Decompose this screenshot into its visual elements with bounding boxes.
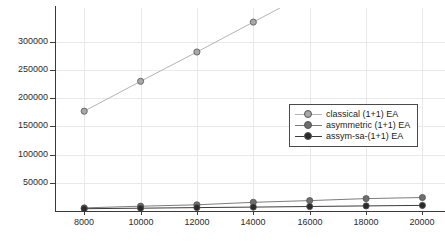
- legend-marker-icon: [304, 110, 312, 118]
- x-tick-mark-1: [141, 211, 142, 215]
- data-point: [363, 196, 369, 202]
- y-tick-label-0: 50000: [0, 178, 48, 187]
- y-tick-label-5: 300000: [0, 37, 48, 46]
- x-tick-label-3: 14000: [240, 217, 265, 227]
- x-tick-mark-0: [84, 211, 85, 215]
- y-tick-mark-0: [50, 183, 55, 184]
- x-tick-mark-5: [366, 211, 367, 215]
- y-tick-mark-2: [50, 126, 55, 127]
- x-tick-label-5: 18000: [353, 217, 378, 227]
- x-tick-label-2: 12000: [184, 217, 209, 227]
- data-point: [194, 49, 200, 55]
- y-tick-label-4: 250000: [0, 65, 48, 74]
- data-point: [363, 203, 369, 209]
- data-point: [307, 198, 313, 204]
- y-tick-mark-4: [50, 70, 55, 71]
- legend-swatch-icon: [295, 131, 322, 142]
- x-tick-mark-3: [253, 211, 254, 215]
- chart-legend: classical (1+1) EAasymmetric (1+1) EAass…: [289, 104, 418, 147]
- x-tick-label-1: 10000: [128, 217, 153, 227]
- series-0: [81, 8, 280, 114]
- data-point: [250, 19, 256, 25]
- y-tick-mark-3: [50, 98, 55, 99]
- y-tick-label-1: 100000: [0, 150, 48, 159]
- x-tick-mark-2: [197, 211, 198, 215]
- x-axis-line: [55, 211, 445, 212]
- data-point: [419, 194, 425, 200]
- y-tick-label-2: 150000: [0, 121, 48, 130]
- legend-swatch-icon: [295, 120, 322, 131]
- x-tick-label-0: 8000: [74, 217, 94, 227]
- y-axis-line: [55, 6, 56, 212]
- data-point: [81, 108, 87, 114]
- legend-label: classical (1+1) EA: [326, 109, 398, 120]
- legend-marker-icon: [304, 132, 312, 140]
- data-point: [307, 203, 313, 209]
- y-tick-mark-5: [50, 42, 55, 43]
- legend-item-1: asymmetric (1+1) EA: [295, 120, 410, 131]
- y-tick-mark-1: [50, 155, 55, 156]
- legend-item-0: classical (1+1) EA: [295, 109, 410, 120]
- data-point: [419, 202, 425, 208]
- x-tick-mark-4: [310, 211, 311, 215]
- legend-swatch-icon: [295, 109, 322, 120]
- legend-marker-icon: [304, 121, 312, 129]
- legend-label: asymmetric (1+1) EA: [326, 120, 410, 131]
- x-tick-mark-6: [422, 211, 423, 215]
- x-tick-label-4: 16000: [297, 217, 322, 227]
- data-point: [250, 204, 256, 210]
- data-point: [138, 78, 144, 84]
- line-chart-figure: 50000100000150000200000250000300000 8000…: [0, 0, 445, 243]
- legend-label: assym-sa-(1+1) EA: [326, 131, 403, 142]
- y-tick-label-3: 200000: [0, 93, 48, 102]
- legend-item-2: assym-sa-(1+1) EA: [295, 131, 410, 142]
- data-point: [194, 205, 200, 211]
- x-tick-label-6: 20000: [409, 217, 434, 227]
